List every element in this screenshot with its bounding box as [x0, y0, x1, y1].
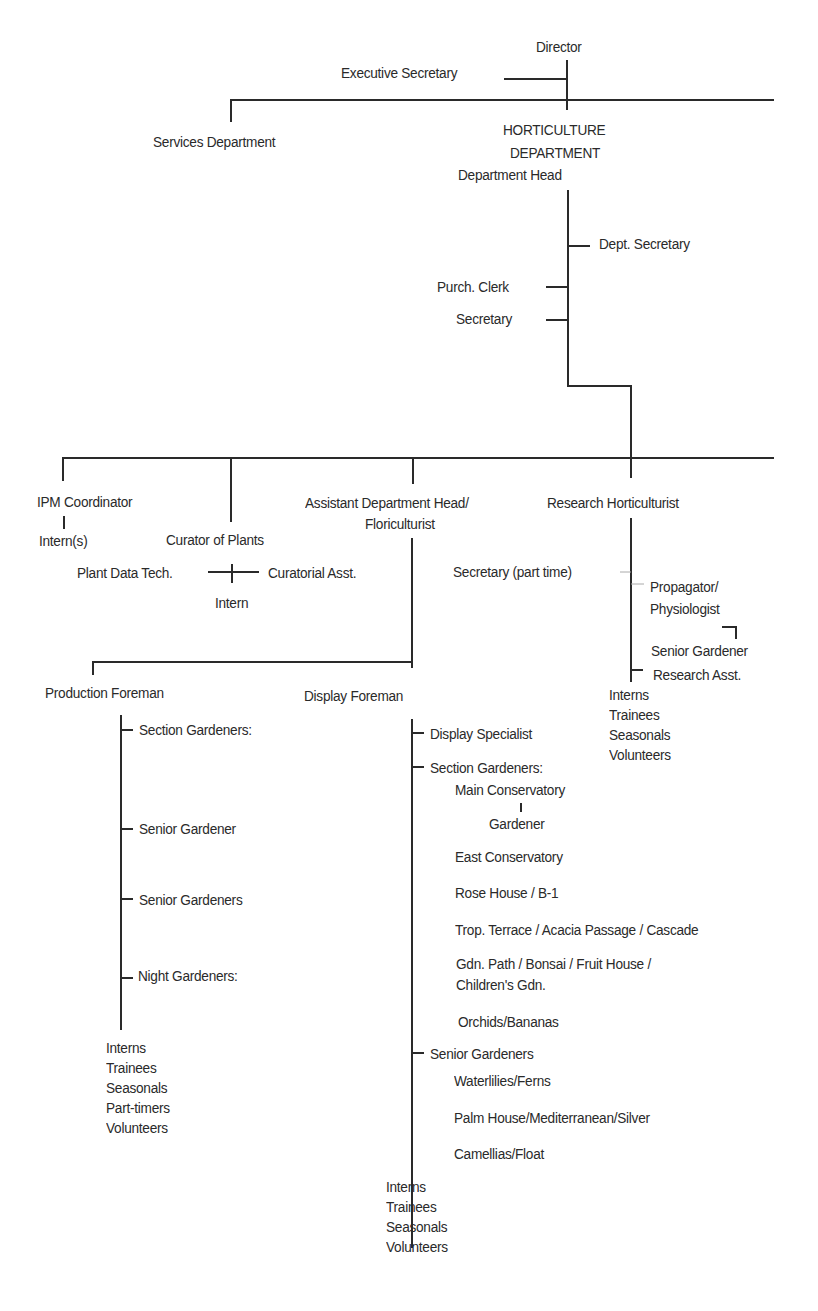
- display-support-item: Seasonals: [386, 1217, 448, 1237]
- research-support-list: Interns Trainees Seasonals Volunteers: [609, 685, 671, 765]
- production-senior-gardener-label: Senior Gardener: [139, 819, 236, 838]
- research-support-item: Seasonals: [609, 725, 671, 745]
- production-support-item: Part-timers: [106, 1098, 170, 1118]
- display-support-item: Trainees: [386, 1197, 448, 1217]
- research-support-item: Trainees: [609, 705, 671, 725]
- production-support-item: Volunteers: [106, 1118, 170, 1138]
- purch-clerk-label: Purch. Clerk: [437, 277, 509, 296]
- production-senior-gardeners-label: Senior Gardeners: [139, 890, 242, 909]
- ipm-coordinator-label: IPM Coordinator: [37, 492, 132, 511]
- rose-house-label: Rose House / B-1: [455, 883, 558, 902]
- orchids-label: Orchids/Bananas: [458, 1012, 559, 1031]
- director-label: Director: [536, 37, 582, 56]
- production-foreman-label: Production Foreman: [45, 683, 164, 702]
- gardener-label: Gardener: [489, 814, 545, 833]
- gdn-path-line2: Children's Gdn.: [456, 975, 546, 994]
- research-support-item: Volunteers: [609, 745, 671, 765]
- research-horticulturist-label: Research Horticulturist: [547, 493, 679, 512]
- research-support-item: Interns: [609, 685, 671, 705]
- org-chart: Director Executive Secretary Services De…: [0, 0, 818, 1311]
- production-support-item: Seasonals: [106, 1078, 170, 1098]
- main-conservatory-label: Main Conservatory: [455, 780, 565, 799]
- curator-intern-label: Intern: [215, 593, 248, 612]
- horticulture-title-line2: DEPARTMENT: [510, 143, 600, 162]
- display-senior-gardeners-label: Senior Gardeners: [430, 1044, 533, 1063]
- research-asst-label: Research Asst.: [653, 665, 741, 684]
- production-support-list: Interns Trainees Seasonals Part-timers V…: [106, 1038, 170, 1138]
- curatorial-asst-label: Curatorial Asst.: [268, 563, 356, 582]
- display-foreman-label: Display Foreman: [304, 686, 403, 705]
- production-section-gardeners-label: Section Gardeners:: [139, 720, 252, 739]
- secretary-part-time-label: Secretary (part time): [453, 562, 572, 581]
- palm-house-label: Palm House/Mediterranean/Silver: [454, 1108, 650, 1127]
- east-conservatory-label: East Conservatory: [455, 847, 563, 866]
- production-support-item: Trainees: [106, 1058, 170, 1078]
- dept-secretary-label: Dept. Secretary: [599, 234, 690, 253]
- executive-secretary-label: Executive Secretary: [341, 63, 457, 82]
- waterlilies-label: Waterlilies/Ferns: [454, 1071, 551, 1090]
- research-senior-gardener-label: Senior Gardener: [651, 641, 748, 660]
- trop-terrace-label: Trop. Terrace / Acacia Passage / Cascade: [455, 920, 698, 939]
- display-section-gardeners-label: Section Gardeners:: [430, 758, 543, 777]
- department-head-label: Department Head: [458, 165, 562, 184]
- propagator-line1: Propagator/: [650, 577, 718, 596]
- curator-of-plants-label: Curator of Plants: [166, 530, 264, 549]
- display-support-list: Interns Trainees Seasonals Volunteers: [386, 1177, 448, 1257]
- gdn-path-line1: Gdn. Path / Bonsai / Fruit House /: [456, 954, 651, 973]
- display-support-item: Interns: [386, 1177, 448, 1197]
- services-department-label: Services Department: [153, 132, 275, 151]
- propagator-line2: Physiologist: [650, 599, 720, 618]
- plant-data-tech-label: Plant Data Tech.: [77, 563, 173, 582]
- ipm-interns-label: Intern(s): [39, 531, 87, 550]
- production-support-item: Interns: [106, 1038, 170, 1058]
- assistant-head-line2: Floriculturist: [365, 514, 435, 533]
- secretary-label: Secretary: [456, 309, 512, 328]
- night-gardeners-label: Night Gardeners:: [138, 966, 238, 985]
- horticulture-title-line1: HORTICULTURE: [503, 120, 605, 139]
- camellias-label: Camellias/Float: [454, 1144, 544, 1163]
- assistant-head-line1: Assistant Department Head/: [305, 493, 469, 512]
- display-support-item: Volunteers: [386, 1237, 448, 1257]
- display-specialist-label: Display Specialist: [430, 724, 532, 743]
